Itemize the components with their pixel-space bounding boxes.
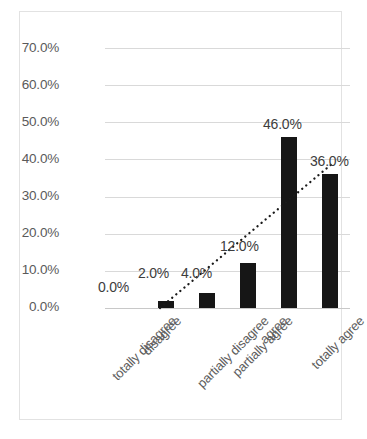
data-label-totally-agree: 36.0% [310, 154, 349, 168]
axis-baseline [105, 308, 350, 309]
y-tick-label: 40.0% [0, 152, 59, 166]
y-tick-label: 20.0% [0, 226, 59, 240]
data-label-totally-disagree: 0.0% [98, 280, 129, 294]
y-tick-label: 50.0% [0, 115, 59, 129]
y-tick-label: 0.0% [0, 300, 59, 314]
data-label-agree: 46.0% [263, 117, 302, 131]
y-tick-label: 70.0% [0, 41, 59, 55]
trendline-path [160, 163, 333, 308]
data-label-disagree: 2.0% [138, 266, 169, 280]
chart-card: 70.0% 60.0% 50.0% 40.0% 30.0% 20.0% 10.0… [19, 11, 342, 420]
y-tick-label: 10.0% [0, 263, 59, 277]
y-tick-label: 60.0% [0, 78, 59, 92]
x-axis-labels: totally disagree disagree partially disa… [105, 310, 350, 420]
data-label-partially-disagree: 4.0% [181, 266, 212, 280]
x-label-totally-agree: totally agree [309, 314, 367, 372]
plot-area: 0.0% 2.0% 4.0% 12.0% 46.0% 36.0% [105, 48, 350, 308]
data-label-partially-agree: 12.0% [220, 239, 259, 253]
y-tick-label: 30.0% [0, 189, 59, 203]
